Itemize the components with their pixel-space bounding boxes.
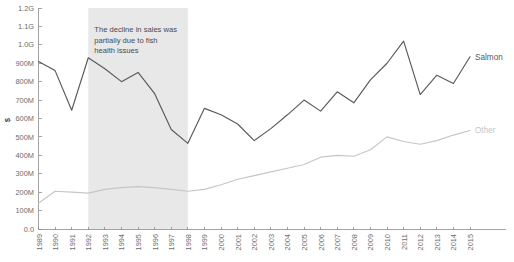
x-tick-label: 2001 xyxy=(234,234,243,250)
y-axis-tick-labels: 0.0100M200M300M400M500M600M700M800M900M1… xyxy=(16,4,35,234)
x-tick-label: 2003 xyxy=(267,234,276,250)
series-label-other: Other xyxy=(475,126,496,135)
annotation-line: health issues xyxy=(94,46,139,55)
x-tick-label: 1996 xyxy=(151,234,160,250)
chart-canvas: 0.0100M200M300M400M500M600M700M800M900M1… xyxy=(0,0,514,262)
x-tick-label: 1995 xyxy=(134,234,143,250)
x-tick-label: 2009 xyxy=(366,234,375,250)
x-tick-label: 1992 xyxy=(84,234,93,250)
y-tick-label: 300M xyxy=(16,169,35,178)
x-tick-label: 1999 xyxy=(200,234,209,250)
x-tick-label: 2006 xyxy=(317,234,326,250)
y-axis-title: $ xyxy=(3,117,12,122)
y-tick-label: 1.2G xyxy=(18,4,34,13)
x-tick-label: 1989 xyxy=(35,234,44,250)
x-tick-label: 2002 xyxy=(250,234,259,250)
series-end-labels: SalmonOther xyxy=(475,53,503,136)
y-tick-label: 700M xyxy=(16,96,35,105)
x-axis-tick-labels: 1989199019911992199319941995199619971998… xyxy=(35,234,476,250)
series-label-salmon: Salmon xyxy=(475,53,503,62)
y-tick-label: 1.1G xyxy=(18,22,34,31)
x-tick-label: 2007 xyxy=(333,234,342,250)
x-tick-label: 2008 xyxy=(350,234,359,250)
x-tick-label: 2004 xyxy=(283,234,292,250)
y-tick-label: 1.0G xyxy=(18,40,34,49)
x-tick-label: 2000 xyxy=(217,234,226,250)
y-tick-label: 600M xyxy=(16,114,35,123)
x-tick-label: 1994 xyxy=(117,234,126,250)
y-tick-label: 800M xyxy=(16,77,35,86)
y-tick-label: 200M xyxy=(16,188,35,197)
sales-line-chart: 0.0100M200M300M400M500M600M700M800M900M1… xyxy=(0,0,514,262)
x-tick-label: 1997 xyxy=(167,234,176,250)
y-tick-label: 400M xyxy=(16,151,35,160)
annotation-line: The decline in sales was xyxy=(94,25,177,34)
x-tick-label: 2012 xyxy=(416,234,425,250)
y-tick-label: 100M xyxy=(16,206,35,215)
x-tick-label: 2014 xyxy=(449,234,458,250)
y-tick-label: 0.0 xyxy=(24,225,34,234)
x-tick-label: 2010 xyxy=(383,234,392,250)
x-tick-label: 1998 xyxy=(184,234,193,250)
x-tick-label: 2011 xyxy=(400,234,409,250)
x-tick-label: 1993 xyxy=(101,234,110,250)
x-tick-label: 2015 xyxy=(466,234,475,250)
y-axis xyxy=(39,8,42,229)
y-tick-label: 900M xyxy=(16,59,35,68)
x-tick-label: 2013 xyxy=(433,234,442,250)
x-tick-label: 1991 xyxy=(68,234,77,250)
x-tick-label: 1990 xyxy=(51,234,60,250)
annotation-line: partially due to fish xyxy=(94,36,157,45)
y-tick-label: 500M xyxy=(16,133,35,142)
x-tick-label: 2005 xyxy=(300,234,309,250)
